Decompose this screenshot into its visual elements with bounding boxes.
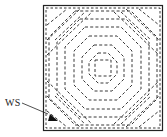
octagon-ring-5 (82, 45, 124, 91)
octagon-ring-4 (74, 36, 132, 100)
concentric-octagon-diagram (0, 0, 167, 137)
octagon-ring-2 (57, 19, 149, 117)
inner-dashed-frame (46, 8, 160, 128)
octagon-ring-6 (89, 53, 117, 83)
octagon-ring-3 (65, 27, 141, 109)
arrow-head-icon (48, 114, 58, 121)
octagon-rings (49, 11, 157, 125)
center-square (95, 60, 111, 76)
